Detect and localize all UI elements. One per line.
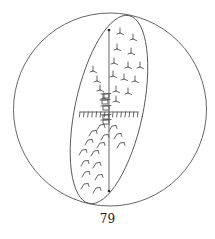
lower-chevron-glyphs [79,125,125,194]
sphere-circle [14,13,207,206]
sphere-outline [14,13,207,206]
y-tick-glyph [130,34,137,41]
sphere-diagram [0,0,215,215]
chevron-glyph [97,143,105,149]
equator-tick [96,112,97,117]
polar-axis-line [108,29,111,193]
y-tick-glyph [113,96,120,103]
y-tick-glyph [110,71,117,78]
chevron-glyph [89,131,97,137]
y-tick-glyph [137,62,144,69]
stack-glyph [101,106,111,111]
equator-tick [79,112,80,117]
y-tick-glyph [125,62,132,69]
y-tick-glyph [94,76,101,83]
equator-tick [137,112,138,117]
center-stack-glyphs [100,94,111,125]
chevron-glyph [79,150,87,156]
y-tick-glyph [111,58,118,65]
figure-caption: 79 [0,212,215,226]
chevron-glyph [81,184,89,190]
chevron-glyph [93,163,101,169]
equator-tick [113,112,114,117]
chevron-glyph [81,161,89,167]
y-tick-glyph [114,44,121,51]
chevron-glyph [97,125,105,131]
equator-tick [88,112,89,117]
chevron-glyph [101,135,109,141]
equator-tick [100,112,101,117]
equator-tick [121,112,122,117]
chevron-glyph [117,143,125,149]
upper-tick-glyphs [90,28,144,103]
chevron-glyph [82,172,90,178]
chevron-glyph [85,140,93,146]
stack-glyph [101,120,111,125]
y-tick-glyph [125,88,132,95]
chevron-glyph [95,175,103,181]
equator-tick [92,112,93,117]
equator-tick [129,112,130,117]
stack-glyph [100,100,110,105]
stack-glyph [101,94,111,99]
y-tick-glyph [117,28,124,35]
y-tick-glyph [128,48,135,55]
chevron-glyph [109,126,117,132]
chevron-glyph [93,188,101,194]
chevron-glyph [91,151,99,157]
equator-tick [117,112,118,117]
y-tick-glyph [90,66,97,73]
equator-tick [84,112,85,117]
y-tick-glyph [97,85,104,92]
stack-glyph [101,115,111,120]
axis-endpoint-dot [108,190,111,193]
y-tick-glyph [121,74,128,81]
chevron-glyph [114,134,122,140]
y-tick-glyph [113,86,120,93]
equator-tick [125,112,126,117]
axis-endpoint-dot [108,29,111,32]
y-tick-glyph [132,76,139,83]
equator-tick [133,112,134,117]
